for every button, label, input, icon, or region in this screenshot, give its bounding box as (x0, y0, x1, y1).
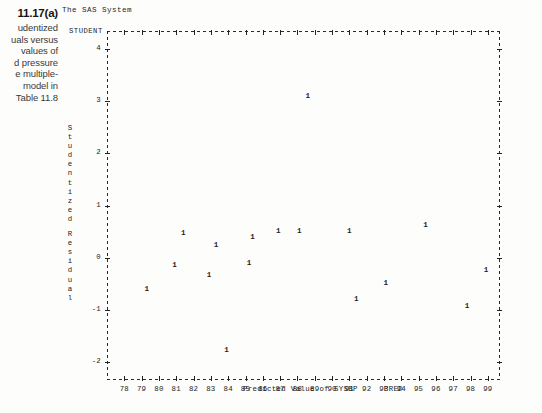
x-tick-top (263, 30, 264, 35)
x-tick (471, 376, 472, 381)
data-point: 1 (179, 229, 187, 238)
x-tick-top (367, 30, 368, 35)
x-tick (332, 376, 333, 381)
x-tick (246, 376, 247, 381)
y-axis-title-char: e (64, 239, 76, 248)
x-tick-top (228, 30, 229, 35)
y-axis-title-char: t (64, 179, 76, 188)
x-tick-top (436, 30, 437, 35)
data-point: 1 (463, 302, 471, 311)
sas-system-title: The SAS System (62, 6, 132, 14)
x-tick (401, 376, 402, 381)
x-tick (384, 376, 385, 381)
x-tick (176, 376, 177, 381)
y-axis-title-char: i (64, 257, 76, 266)
x-tick-top (142, 30, 143, 35)
x-tick (228, 376, 229, 381)
x-tick (159, 376, 160, 381)
y-axis-title-char: l (64, 294, 76, 303)
x-tick (211, 376, 212, 381)
plot-legend-label: STUDENT (69, 27, 103, 35)
plot-frame: 7879808182838485868788899091929394959697… (107, 31, 500, 380)
x-tick-top (453, 30, 454, 35)
x-axis-title-text: Predicted Value of SYSBP (243, 385, 358, 393)
y-axis-title-char: i (64, 188, 76, 197)
y-axis-title-char: t (64, 133, 76, 142)
x-tick-top (401, 30, 402, 35)
y-axis-title-char: d (64, 151, 76, 160)
data-point: 1 (304, 92, 312, 101)
x-tick (349, 376, 350, 381)
y-axis-title-char: z (64, 197, 76, 206)
x-tick (142, 376, 143, 381)
x-tick (297, 376, 298, 381)
frame-top-edge (107, 31, 500, 32)
y-tick-label: -2 (81, 357, 101, 365)
y-axis-title-char: a (64, 285, 76, 294)
x-tick-top (315, 30, 316, 35)
x-tick-top (384, 30, 385, 35)
y-tick-label: 1 (81, 201, 101, 209)
x-tick-top (471, 30, 472, 35)
y-axis-title-char: d (64, 215, 76, 224)
y-tick-right (497, 206, 502, 207)
x-tick-top (194, 30, 195, 35)
y-tick-label: -1 (81, 305, 101, 313)
x-tick-label: 99 (476, 385, 500, 393)
y-tick-right (497, 101, 502, 102)
y-tick (105, 206, 110, 207)
y-tick (105, 258, 110, 259)
scanned-page: 11.17(a) udentized uals versus values of… (0, 0, 542, 413)
y-axis-title: StudentizedResidual (64, 124, 76, 303)
data-point: 1 (352, 295, 360, 304)
y-tick-label: 0 (81, 253, 101, 261)
frame-bottom-edge (107, 379, 500, 380)
data-point: 1 (274, 227, 282, 236)
sas-output: The SAS System STUDENT StudentizedResidu… (0, 0, 542, 413)
x-tick-top (159, 30, 160, 35)
data-point: 1 (345, 227, 353, 236)
data-point: 1 (212, 241, 220, 250)
x-tick-top (332, 30, 333, 35)
y-tick-right (497, 362, 502, 363)
y-axis-title-char: n (64, 169, 76, 178)
y-axis-title-char: d (64, 266, 76, 275)
x-tick-top (246, 30, 247, 35)
x-tick-top (124, 30, 125, 35)
y-tick (105, 310, 110, 311)
y-axis-title-char: s (64, 248, 76, 257)
data-point: 1 (222, 346, 230, 355)
y-axis-title-char: R (64, 230, 76, 239)
data-point: 1 (205, 271, 213, 280)
x-tick (367, 376, 368, 381)
x-tick-top (211, 30, 212, 35)
data-point: 1 (143, 285, 151, 294)
data-point: 1 (171, 261, 179, 270)
y-axis-title-char: u (64, 142, 76, 151)
y-tick-right (497, 310, 502, 311)
x-tick-top (297, 30, 298, 35)
y-tick-right (497, 49, 502, 50)
x-tick (488, 376, 489, 381)
y-tick-label: 3 (81, 96, 101, 104)
x-tick (263, 376, 264, 381)
x-tick (315, 376, 316, 381)
x-axis-variable-name: PRED (384, 385, 403, 393)
data-point: 1 (422, 221, 430, 230)
data-point: 1 (482, 266, 490, 275)
x-tick-top (176, 30, 177, 35)
x-tick (436, 376, 437, 381)
y-tick-label: 4 (81, 44, 101, 52)
data-point: 1 (245, 259, 253, 268)
x-tick (194, 376, 195, 381)
y-axis-title-char: e (64, 160, 76, 169)
data-point: 1 (248, 233, 256, 242)
y-tick-label: 2 (81, 148, 101, 156)
y-tick (105, 362, 110, 363)
y-axis-title-char: S (64, 124, 76, 133)
data-point: 1 (382, 279, 390, 288)
y-tick-right (497, 153, 502, 154)
y-tick (105, 153, 110, 154)
x-tick-top (419, 30, 420, 35)
y-axis-title-char: u (64, 276, 76, 285)
